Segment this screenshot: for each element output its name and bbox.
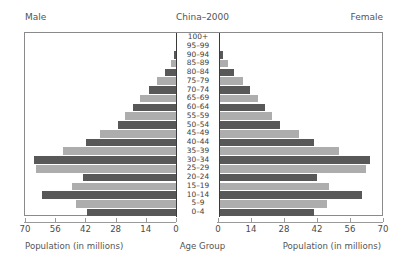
bar-female xyxy=(219,156,370,164)
bar-male xyxy=(118,121,177,129)
x-axis-tick xyxy=(85,218,86,222)
age-group-label: 70–74 xyxy=(177,86,219,95)
bar-male xyxy=(63,147,177,155)
bar-female xyxy=(219,183,329,191)
x-axis-tick xyxy=(317,218,318,222)
bar-male xyxy=(76,200,177,208)
x-axis-right xyxy=(217,222,383,223)
age-group-label: 85–89 xyxy=(177,59,219,68)
bar-female xyxy=(219,60,228,68)
age-group-label: 40–44 xyxy=(177,138,219,147)
bar-male xyxy=(87,209,177,217)
x-axis-tick-label: 28 xyxy=(273,224,295,234)
x-axis-tick-label: 70 xyxy=(372,224,394,234)
bar-male xyxy=(157,77,177,85)
x-axis-tick-label: 70 xyxy=(14,224,36,234)
bar-male xyxy=(72,183,177,191)
bar-male xyxy=(149,86,177,94)
female-side-label: Female xyxy=(350,12,383,22)
bar-female xyxy=(219,86,250,94)
age-group-label: 25–29 xyxy=(177,164,219,173)
x-axis-tick xyxy=(218,218,219,222)
age-group-label: 20–24 xyxy=(177,173,219,182)
x-axis-tick-label: 42 xyxy=(74,224,96,234)
bar-female xyxy=(219,130,299,138)
x-axis-tick xyxy=(176,218,177,222)
bar-female xyxy=(219,209,314,217)
bar-female xyxy=(219,104,265,112)
age-group-label: 65–69 xyxy=(177,94,219,103)
bar-female xyxy=(219,95,258,103)
age-group-label: 35–39 xyxy=(177,147,219,156)
x-axis-tick-label: 42 xyxy=(306,224,328,234)
bar-female xyxy=(219,147,339,155)
x-axis-tick xyxy=(55,218,56,222)
x-axis-tick xyxy=(284,218,285,222)
bar-male xyxy=(125,112,177,120)
x-axis-tick-label: 0 xyxy=(165,224,187,234)
age-group-label: 75–79 xyxy=(177,77,219,86)
age-group-label: 50–54 xyxy=(177,121,219,130)
age-group-label: 80–84 xyxy=(177,68,219,77)
bar-female xyxy=(219,139,314,147)
center-axis-right xyxy=(219,33,220,217)
x-axis-tick xyxy=(383,218,384,222)
bar-female xyxy=(219,69,234,77)
bar-male xyxy=(100,130,177,138)
bar-female xyxy=(219,191,362,199)
bar-male xyxy=(42,191,177,199)
bar-male xyxy=(36,165,177,173)
x-axis-tick-label: 28 xyxy=(105,224,127,234)
age-group-label: 55–59 xyxy=(177,112,219,121)
chart-title: China–2000 xyxy=(0,12,405,22)
bar-male xyxy=(86,139,177,147)
bar-female xyxy=(219,165,366,173)
x-axis-tick xyxy=(350,218,351,222)
bar-female xyxy=(219,174,317,182)
population-pyramid-figure: Male China–2000 Female 0–45–910–1415–192… xyxy=(0,0,405,269)
plot-area: 0–45–910–1415–1920–2425–2930–3435–3940–4… xyxy=(24,32,383,216)
bar-female xyxy=(219,200,327,208)
x-axis-tick-label: 56 xyxy=(339,224,361,234)
age-group-label: 95–99 xyxy=(177,42,219,51)
bar-female xyxy=(219,112,272,120)
age-group-label: 15–19 xyxy=(177,182,219,191)
age-group-label: 90–94 xyxy=(177,51,219,60)
bar-male xyxy=(34,156,177,164)
x-axis-tick xyxy=(25,218,26,222)
bar-male xyxy=(140,95,177,103)
x-axis-tick-label: 14 xyxy=(240,224,262,234)
x-axis-tick xyxy=(116,218,117,222)
age-group-label: 45–49 xyxy=(177,129,219,138)
x-axis-tick xyxy=(251,218,252,222)
age-group-label: 60–64 xyxy=(177,103,219,112)
x-axis-tick-label: 14 xyxy=(135,224,157,234)
bar-male xyxy=(133,104,177,112)
age-group-label: 0–4 xyxy=(177,208,219,217)
x-axis-tick-label: 0 xyxy=(207,224,229,234)
x-axis-right-title: Population (in millions) xyxy=(283,241,381,251)
bar-female xyxy=(219,77,243,85)
age-group-label: 5–9 xyxy=(177,199,219,208)
x-axis-left xyxy=(24,222,176,223)
bar-female xyxy=(219,121,280,129)
x-axis-tick xyxy=(146,218,147,222)
age-group-label: 10–14 xyxy=(177,191,219,200)
bar-male xyxy=(83,174,177,182)
age-group-label: 100+ xyxy=(177,33,219,42)
age-group-label: 30–34 xyxy=(177,156,219,165)
x-axis-tick-label: 56 xyxy=(44,224,66,234)
